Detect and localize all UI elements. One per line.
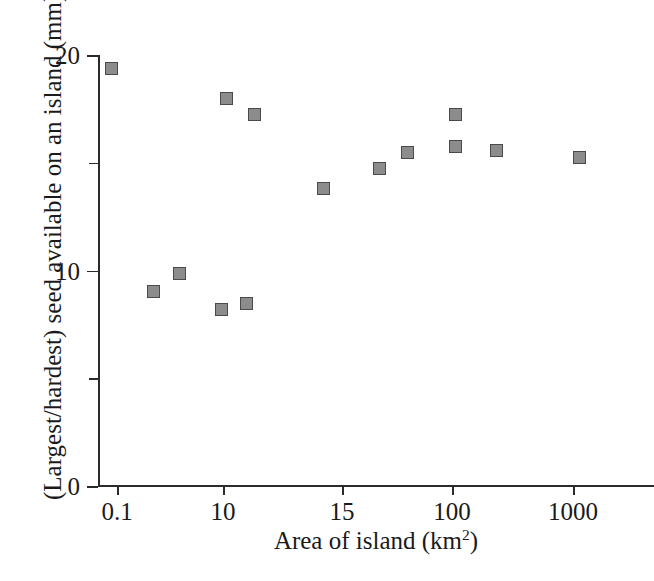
data-point-p6 (240, 297, 253, 310)
x-tick-15 (342, 485, 344, 495)
x-tick-label-15: 15 (330, 499, 355, 524)
x-axis-title-tail: ) (470, 527, 478, 554)
data-point-p3 (173, 267, 186, 280)
x-tick-100 (452, 485, 454, 495)
x-axis-line (98, 485, 654, 487)
data-point-p7 (248, 108, 261, 121)
y-axis-line (98, 55, 100, 486)
x-axis-title-superscript: 2 (462, 526, 470, 543)
data-point-p4 (215, 303, 228, 316)
data-point-p10 (401, 146, 414, 159)
y-tick-major-20: 20 (87, 55, 98, 57)
x-tick-label-100: 100 (433, 499, 471, 524)
x-tick-label-10: 10 (211, 499, 236, 524)
x-tick-10 (223, 485, 225, 495)
data-point-p2 (147, 285, 160, 298)
scatter-plot-figure: 01020 0.110151001000 (Largest/hardest) s… (0, 0, 654, 581)
data-point-p14 (573, 151, 586, 164)
x-tick-label-0.1: 0.1 (101, 499, 132, 524)
plot-area: 01020 0.110151001000 (98, 55, 654, 486)
x-tick-0.1 (117, 485, 119, 495)
x-axis-title: Area of island (km2) (98, 527, 654, 555)
data-point-p1 (105, 62, 118, 75)
data-point-p11 (449, 108, 462, 121)
y-axis-title: (Largest/hardest) seed available on an i… (40, 30, 80, 500)
data-point-p9 (373, 162, 386, 175)
data-point-p13 (490, 144, 503, 157)
data-point-p12 (449, 140, 462, 153)
y-tick-minor-15 (89, 163, 98, 165)
y-tick-minor-5 (89, 378, 98, 380)
data-point-p5 (220, 92, 233, 105)
y-tick-major-0: 0 (87, 486, 98, 488)
y-tick-major-10: 10 (87, 271, 98, 273)
x-tick-1000 (573, 485, 575, 495)
x-tick-label-1000: 1000 (548, 499, 598, 524)
x-axis-title-base: Area of island (km (274, 527, 462, 554)
data-point-p8 (317, 182, 330, 195)
